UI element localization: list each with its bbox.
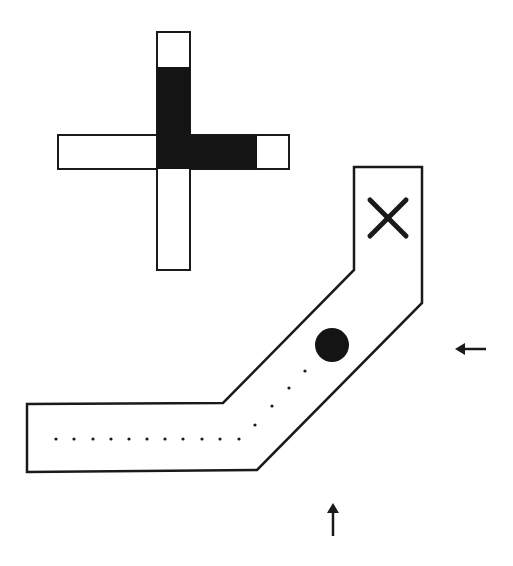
direction-arrows	[327, 343, 486, 536]
trail-dot	[109, 437, 112, 440]
trail-dot	[54, 437, 57, 440]
trail-dot	[91, 437, 94, 440]
trail-dot	[237, 437, 240, 440]
corridor-path	[27, 167, 422, 472]
trail-dot	[218, 437, 221, 440]
cross-filled-right	[157, 135, 257, 169]
diagram-canvas	[0, 0, 513, 566]
trail-dot	[253, 423, 256, 426]
trail-dot	[163, 437, 166, 440]
cross-indicator	[58, 32, 289, 270]
trail-dot	[303, 369, 306, 372]
trail-dot	[200, 437, 203, 440]
left-arrow-icon	[455, 343, 486, 355]
ball	[315, 328, 349, 362]
trail-dot	[145, 437, 148, 440]
trail-dot	[287, 386, 290, 389]
trail-dot	[181, 437, 184, 440]
up-arrow-icon	[327, 503, 339, 536]
trail-dot	[127, 437, 130, 440]
trail-dots	[54, 369, 306, 440]
trail-dot	[72, 437, 75, 440]
goal-x-icon	[370, 200, 406, 236]
trail-dot	[270, 404, 273, 407]
